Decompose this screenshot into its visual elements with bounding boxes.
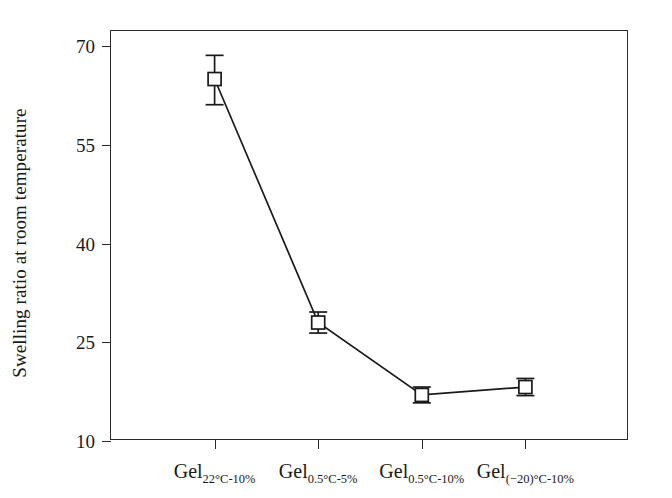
- x-axis-tick-label: Gel0.5°C-10%: [379, 461, 464, 486]
- y-axis-tick: 25: [102, 342, 111, 343]
- y-axis-tick-label: 40: [76, 234, 95, 256]
- y-axis-tick: 10: [102, 441, 111, 442]
- data-layer: [111, 31, 629, 441]
- x-tick-label-subscript: 0.5°C-5%: [308, 472, 358, 486]
- x-tick-label-base: Gel: [477, 460, 506, 482]
- plot-area: 1025405570 Gel22°C-10%Gel0.5°C-5%Gel0.5°…: [110, 30, 628, 440]
- data-point-marker: [519, 381, 532, 394]
- x-tick-label-base: Gel: [174, 460, 203, 482]
- y-axis-tick: 70: [102, 46, 111, 47]
- data-point-marker: [312, 316, 325, 329]
- x-tick-label-subscript: (−20)°C-10%: [506, 472, 574, 486]
- x-tick-label-base: Gel: [379, 460, 408, 482]
- y-axis-title-text: Swelling ratio at room temperature: [9, 108, 31, 377]
- y-axis-tick-label: 10: [76, 431, 95, 453]
- x-axis-tick-label: Gel0.5°C-5%: [279, 461, 358, 486]
- series-markers: [208, 73, 532, 402]
- y-axis-tick-label: 55: [76, 135, 95, 157]
- y-axis-title: Swelling ratio at room temperature: [0, 0, 40, 498]
- series-line-swelling-ratio: [215, 79, 526, 395]
- y-axis-tick-label: 25: [76, 332, 95, 354]
- y-axis-tick-label: 70: [76, 36, 95, 58]
- x-tick-label-subscript: 22°C-10%: [203, 472, 256, 486]
- y-axis-tick: 55: [102, 145, 111, 146]
- x-axis-tick-label: Gel(−20)°C-10%: [477, 461, 574, 486]
- x-axis-tick-label: Gel22°C-10%: [174, 461, 256, 486]
- data-point-marker: [415, 388, 428, 401]
- x-tick-label-subscript: 0.5°C-10%: [408, 472, 464, 486]
- figure-canvas: Swelling ratio at room temperature 10254…: [0, 0, 672, 498]
- y-axis-tick: 40: [102, 244, 111, 245]
- error-bars: [206, 55, 535, 402]
- x-tick-label-base: Gel: [279, 460, 308, 482]
- data-point-marker: [208, 73, 221, 86]
